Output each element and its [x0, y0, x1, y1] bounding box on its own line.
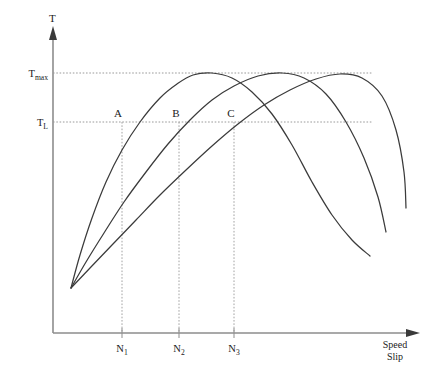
x-axis-title-speed: Speed: [383, 339, 407, 350]
torque-speed-diagram: T Speed Slip Tmax TL: [0, 0, 432, 374]
vertical-guides: [122, 122, 234, 333]
diagram-canvas: T Speed Slip Tmax TL: [0, 0, 432, 374]
y-tick-labels: Tmax TL: [29, 68, 49, 131]
y-tick-sub-tmax: max: [35, 73, 48, 82]
x-tick-sub-n3: 3: [236, 348, 240, 357]
operating-point-label-a: A: [114, 107, 122, 119]
x-tick-sub-n1: 1: [124, 348, 128, 357]
x-axis-title-slip: Slip: [387, 351, 403, 362]
x-tick-labels: N1 N2 N3: [116, 343, 240, 357]
x-axis-arrow-icon: [406, 329, 420, 337]
x-tick-label-n3: N3: [228, 343, 240, 357]
operating-point-label-b: B: [172, 107, 179, 119]
curve-1: [71, 73, 370, 288]
horizontal-guides: [53, 73, 372, 122]
x-tick-label-n1: N1: [116, 343, 128, 357]
operating-point-labels: A B C: [114, 107, 235, 119]
x-axis: Speed Slip: [53, 329, 420, 362]
y-axis-arrow-icon: [49, 26, 57, 40]
operating-point-label-c: C: [227, 107, 234, 119]
x-tick-sub-n2: 2: [181, 348, 185, 357]
curve-layer: [71, 73, 406, 288]
y-tick-sub-tl: L: [43, 122, 48, 131]
x-tick-label-n2: N2: [173, 343, 185, 357]
y-tick-label-tl: TL: [37, 117, 48, 131]
y-tick-label-tmax: Tmax: [29, 68, 49, 82]
y-axis: T: [49, 12, 57, 333]
curve-2: [71, 73, 386, 288]
y-axis-title: T: [49, 12, 56, 24]
